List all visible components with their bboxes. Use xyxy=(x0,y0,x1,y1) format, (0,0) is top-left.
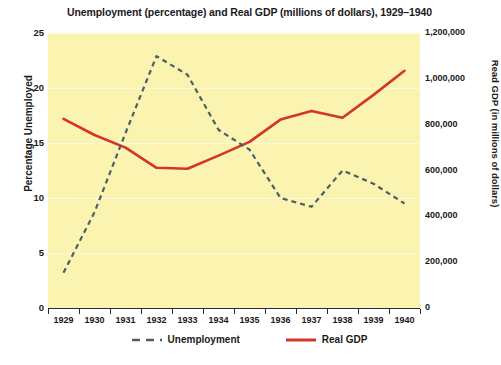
x-axis-tick xyxy=(358,309,359,314)
y-axis-left-label: 5 xyxy=(10,247,44,258)
legend-label-unemployment: Unemployment xyxy=(168,334,240,345)
y-axis-right-title: Read GDP (in millions of dollars) xyxy=(490,34,501,234)
y-axis-right-label: 800,000 xyxy=(425,119,485,129)
legend-item-unemployment: Unemployment xyxy=(132,334,240,345)
x-axis-tick xyxy=(234,309,235,314)
y-axis-right-label: 1,000,000 xyxy=(425,73,485,83)
solid-line-icon xyxy=(286,335,316,345)
x-axis-tick xyxy=(265,309,266,314)
series-line-unemployment xyxy=(64,56,405,273)
y-axis-left-title: Percentage Unemployed xyxy=(23,44,34,224)
x-axis-tick xyxy=(203,309,204,314)
y-axis-right-label: 0 xyxy=(425,302,485,312)
y-axis-right-label: 600,000 xyxy=(425,165,485,175)
x-axis-tick xyxy=(172,309,173,314)
x-axis-tick xyxy=(389,309,390,314)
x-axis-tick xyxy=(327,309,328,314)
x-axis-tick xyxy=(48,309,49,314)
y-axis-left-label: 25 xyxy=(10,27,44,38)
legend-item-real-gdp: Real GDP xyxy=(286,334,368,345)
chart-title: Unemployment (percentage) and Real GDP (… xyxy=(0,6,499,18)
x-axis-tick xyxy=(141,309,142,314)
y-axis-right-label: 200,000 xyxy=(425,256,485,266)
series-layer xyxy=(48,33,420,308)
x-axis-tick xyxy=(79,309,80,314)
dashed-line-icon xyxy=(132,335,162,345)
y-axis-right-label: 1,200,000 xyxy=(425,27,485,37)
x-axis-tick xyxy=(420,309,421,314)
x-axis-label: 1940 xyxy=(385,315,425,325)
x-axis-tick xyxy=(110,309,111,314)
y-axis-right-label: 400,000 xyxy=(425,210,485,220)
y-axis-left-label: 0 xyxy=(10,302,44,313)
x-axis-tick xyxy=(296,309,297,314)
legend-label-real-gdp: Real GDP xyxy=(322,334,368,345)
plot-area xyxy=(48,33,420,308)
series-line-real-gdp xyxy=(64,71,405,169)
chart-legend: Unemployment Real GDP xyxy=(0,334,499,345)
